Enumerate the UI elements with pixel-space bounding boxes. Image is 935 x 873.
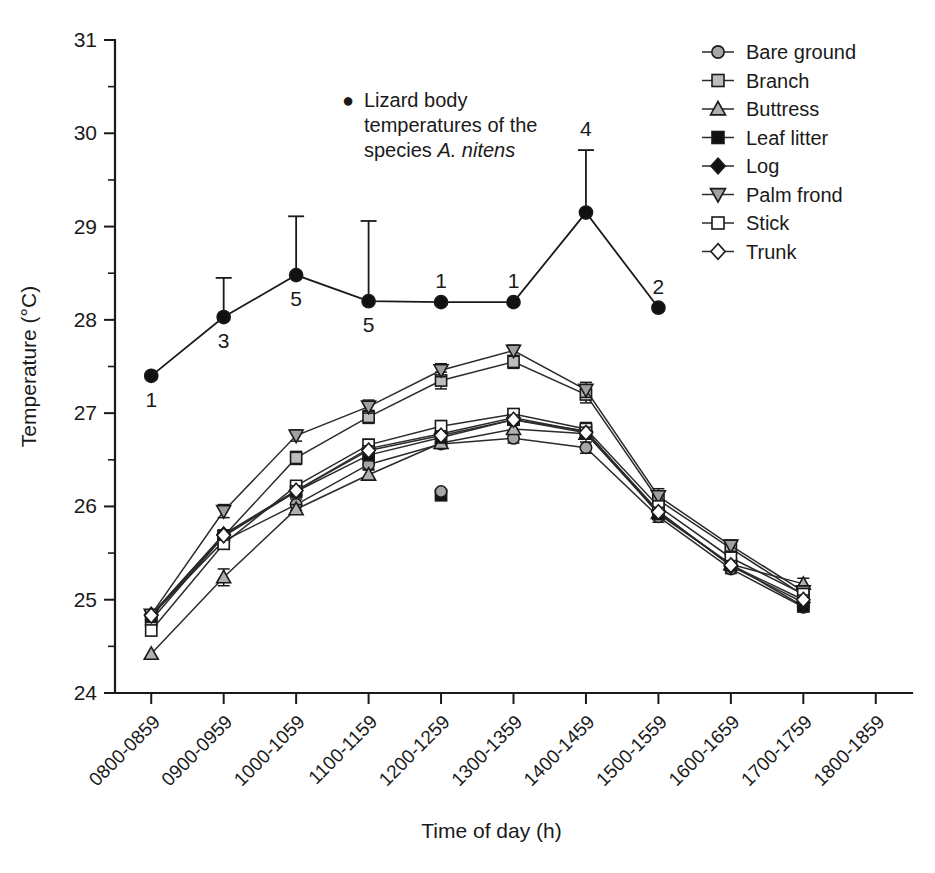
lizard-data-point	[507, 296, 520, 309]
bare-ground-outlier-circle	[435, 486, 446, 497]
legend-marker-square	[712, 75, 724, 87]
lizard-data-point	[434, 296, 447, 309]
x-axis-title: Time of day (h)	[421, 819, 561, 842]
sample-size-label: 1	[435, 269, 447, 292]
legend-marker-square	[712, 217, 724, 229]
legend-label: Bare ground	[746, 41, 856, 63]
legend-label: Log	[746, 155, 779, 177]
y-axis-title: Temperature (°C)	[17, 286, 40, 447]
sample-size-label: 3	[218, 329, 230, 352]
legend-label: Leaf litter	[746, 127, 829, 149]
figure-root: 2425262728293031 0800-08590900-09591000-…	[0, 0, 935, 873]
y-tick-label: 31	[74, 28, 97, 51]
lizard-data-point	[217, 310, 230, 323]
sample-size-label: 2	[653, 275, 665, 298]
annotation-line-1: Lizard body	[364, 89, 467, 111]
sample-size-label: 4	[580, 117, 592, 140]
y-tick-label: 29	[74, 215, 97, 238]
sample-size-label: 1	[508, 269, 520, 292]
lizard-data-point	[362, 295, 375, 308]
legend-label: Stick	[746, 212, 790, 234]
data-point-marker	[291, 452, 302, 463]
legend-marker-circle	[712, 46, 724, 58]
y-tick-label: 26	[74, 494, 97, 517]
legend-label: Trunk	[746, 241, 797, 263]
annotation-species-prefix: species	[364, 139, 437, 161]
y-tick-label: 30	[74, 121, 97, 144]
sample-size-label: 1	[145, 388, 157, 411]
legend-label: Buttress	[746, 98, 819, 120]
sample-size-label: 5	[363, 313, 375, 336]
data-point-marker	[580, 442, 591, 453]
legend-label: Palm frond	[746, 184, 843, 206]
legend-marker-square	[712, 132, 724, 144]
y-tick-label: 24	[74, 681, 98, 704]
legend-label: Branch	[746, 70, 809, 92]
annotation-line-3: species A. nitens	[364, 139, 515, 161]
extra-markers-group	[435, 486, 446, 501]
lizard-data-point	[145, 369, 158, 382]
annotation-species-name: A. nitens	[436, 139, 515, 161]
y-tick-label: 28	[74, 308, 97, 331]
lizard-data-point	[579, 206, 592, 219]
temperature-time-line-chart: 2425262728293031 0800-08590900-09591000-…	[0, 0, 935, 873]
y-tick-label: 27	[74, 401, 97, 424]
lizard-data-point	[652, 301, 665, 314]
annotation-bullet-icon: ●	[342, 89, 354, 111]
sample-size-label: 5	[290, 287, 302, 310]
lizard-data-point	[290, 269, 303, 282]
y-tick-label: 25	[74, 588, 97, 611]
data-point-marker	[146, 625, 157, 636]
annotation-line-2: temperatures of the	[364, 114, 537, 136]
